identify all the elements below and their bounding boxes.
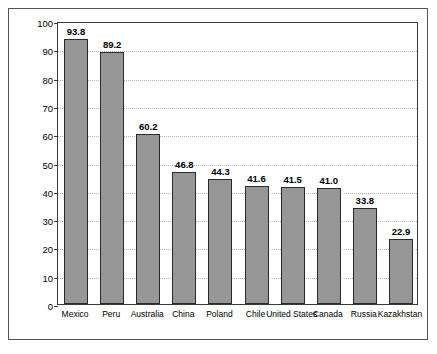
bar[interactable]	[353, 208, 377, 304]
bar[interactable]	[172, 172, 196, 304]
bar-slot: 41.5	[281, 21, 305, 304]
bar-value-label: 89.2	[103, 39, 122, 50]
bar-value-label: 22.9	[392, 226, 411, 237]
bar[interactable]	[136, 134, 160, 304]
y-axis-tick-mark	[54, 165, 58, 166]
y-axis-tick-mark	[54, 221, 58, 222]
y-axis-tick-label: 80	[42, 74, 53, 85]
bar-slot: 33.8	[353, 21, 377, 304]
bar[interactable]	[317, 188, 341, 304]
bar-chart-figure: Values in Millions of Ounces 01020304050…	[0, 0, 437, 354]
bar-value-label: 46.8	[175, 159, 194, 170]
bar-value-label: 44.3	[211, 166, 230, 177]
bar-slot: 44.3	[208, 21, 232, 304]
bar[interactable]	[100, 52, 124, 304]
bar-value-label: 41.0	[320, 175, 339, 186]
bar-slot: 46.8	[172, 21, 196, 304]
y-axis-tick-mark	[54, 306, 58, 307]
y-axis-tick-label: 90	[42, 46, 53, 57]
bar-slot: 60.2	[136, 21, 160, 304]
bar-slot: 41.6	[245, 21, 269, 304]
y-axis-tick-mark	[54, 278, 58, 279]
bar-value-label: 60.2	[139, 121, 158, 132]
bar-slot: 89.2	[100, 21, 124, 304]
y-axis-tick-label: 60	[42, 131, 53, 142]
y-axis-tick-label: 20	[42, 244, 53, 255]
bar-slot: 93.8	[64, 21, 88, 304]
y-axis-tick-label: 30	[42, 216, 53, 227]
bar-slot: 41.0	[317, 21, 341, 304]
y-axis-tick-mark	[54, 51, 58, 52]
y-axis-tick-label: 10	[42, 272, 53, 283]
y-axis-tick-mark	[54, 136, 58, 137]
bar[interactable]	[281, 187, 305, 304]
y-axis-tick-mark	[54, 193, 58, 194]
y-axis-tick-label: 70	[42, 102, 53, 113]
bar-value-label: 41.5	[283, 174, 302, 185]
bar[interactable]	[64, 39, 88, 304]
bar[interactable]	[245, 186, 269, 304]
y-axis-tick-mark	[54, 108, 58, 109]
bar[interactable]	[208, 179, 232, 304]
x-axis-category-label: Kazakhstan	[374, 309, 426, 319]
y-axis-tick-label: 50	[42, 159, 53, 170]
bar-value-label: 93.8	[67, 26, 86, 37]
y-axis-tick-label: 40	[42, 187, 53, 198]
y-axis-tick-mark	[54, 80, 58, 81]
bar-slot: 22.9	[389, 21, 413, 304]
y-axis-tick-mark	[54, 23, 58, 24]
bar[interactable]	[389, 239, 413, 304]
bar-value-label: 41.6	[247, 173, 266, 184]
plot-area: 0102030405060708090100 93.889.260.246.84…	[57, 22, 418, 305]
bar-value-label: 33.8	[356, 195, 375, 206]
y-axis-tick-label: 100	[37, 18, 53, 29]
y-axis-tick-mark	[54, 249, 58, 250]
